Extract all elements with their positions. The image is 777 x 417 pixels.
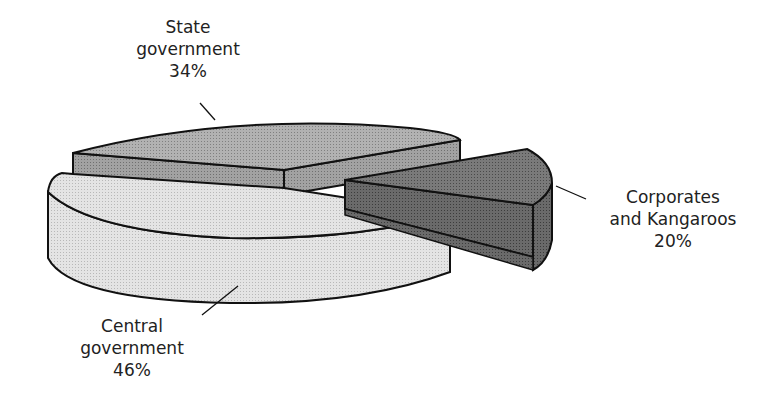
label-state-line1: State: [118, 16, 258, 38]
label-state-government: State government 34%: [118, 16, 258, 82]
label-state-line2: government: [118, 38, 258, 60]
label-state-pct: 34%: [118, 60, 258, 82]
label-central-pct: 46%: [62, 359, 202, 381]
leader-line-state: [200, 103, 215, 120]
label-central-line2: government: [62, 337, 202, 359]
label-corporates-line1: Corporates: [578, 186, 768, 208]
label-corporates-line2: and Kangaroos: [578, 208, 768, 230]
label-corporates-and-kangaroos: Corporates and Kangaroos 20%: [578, 186, 768, 252]
label-central-line1: Central: [62, 315, 202, 337]
label-central-government: Central government 46%: [62, 315, 202, 381]
label-corporates-pct: 20%: [578, 230, 768, 252]
